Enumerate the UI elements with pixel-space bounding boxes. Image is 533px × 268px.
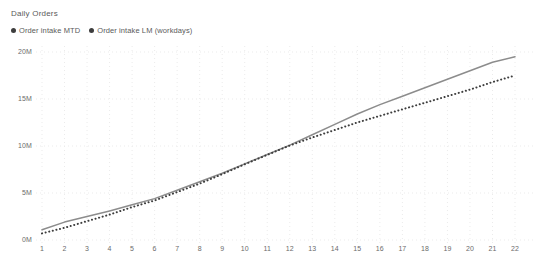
x-axis-tick-6: 6 [146, 245, 164, 252]
x-axis-tick-1: 1 [33, 245, 51, 252]
x-axis-tick-7: 7 [168, 245, 186, 252]
y-axis-tick-5M: 5M [6, 189, 32, 196]
plot-area: 0M5M10M15M20M 12345678910111213141516171… [0, 0, 533, 268]
y-axis-tick-0M: 0M [6, 236, 32, 243]
series-line-mtd[interactable] [42, 57, 515, 230]
x-axis-tick-21: 21 [483, 245, 501, 252]
daily-orders-chart: Daily Orders Order intake MTD Order inta… [0, 0, 533, 268]
series-lines [42, 57, 515, 234]
y-axis-tick-15M: 15M [6, 95, 32, 102]
x-axis-tick-18: 18 [416, 245, 434, 252]
x-axis-tick-13: 13 [303, 245, 321, 252]
x-axis-tick-3: 3 [78, 245, 96, 252]
x-axis-tick-9: 9 [213, 245, 231, 252]
x-axis-tick-10: 10 [236, 245, 254, 252]
x-axis-tick-20: 20 [461, 245, 479, 252]
y-axis-tick-20M: 20M [6, 48, 32, 55]
x-axis-tick-16: 16 [371, 245, 389, 252]
plot-svg [0, 0, 533, 268]
x-axis-tick-2: 2 [56, 245, 74, 252]
x-axis-tick-5: 5 [123, 245, 141, 252]
x-axis-tick-14: 14 [326, 245, 344, 252]
x-axis-tick-8: 8 [191, 245, 209, 252]
x-axis-tick-17: 17 [393, 245, 411, 252]
x-axis-tick-4: 4 [101, 245, 119, 252]
x-axis-tick-22: 22 [506, 245, 524, 252]
x-axis-tick-15: 15 [348, 245, 366, 252]
x-axis-tick-19: 19 [438, 245, 456, 252]
x-axis-tick-12: 12 [281, 245, 299, 252]
y-axis-tick-10M: 10M [6, 142, 32, 149]
x-axis-tick-11: 11 [258, 245, 276, 252]
